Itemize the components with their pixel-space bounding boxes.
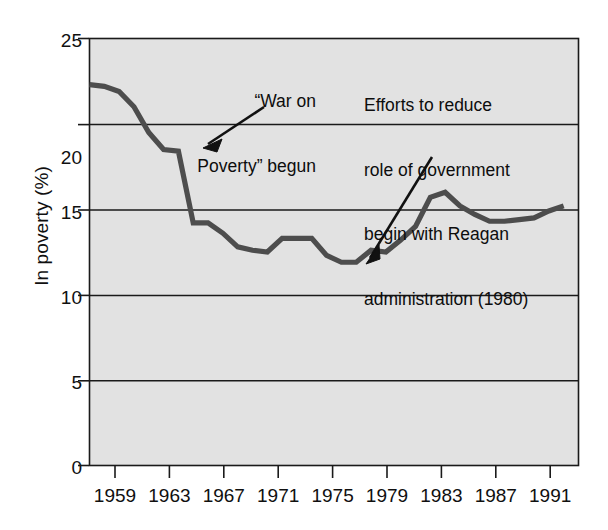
annotation-war-on-poverty: “War on Poverty” begun <box>168 48 316 220</box>
x-tick-label-1991: 1991 <box>515 486 585 505</box>
annotation-reagan-administration: Efforts to reduce role of government beg… <box>364 52 584 353</box>
poverty-rate-chart-figure: In poverty (%) 25 20 15 10 5 0 <box>0 0 608 530</box>
annotation-reagan-line-1: Efforts to reduce <box>364 95 584 117</box>
annotation-war-line-1: “War on <box>168 91 316 113</box>
annotation-reagan-line-3: begin with Reagan <box>364 224 584 246</box>
annotation-reagan-line-2: role of government <box>364 160 584 182</box>
annotation-reagan-line-4: administration (1980) <box>364 289 584 311</box>
annotation-war-line-2: Poverty” begun <box>168 156 316 178</box>
